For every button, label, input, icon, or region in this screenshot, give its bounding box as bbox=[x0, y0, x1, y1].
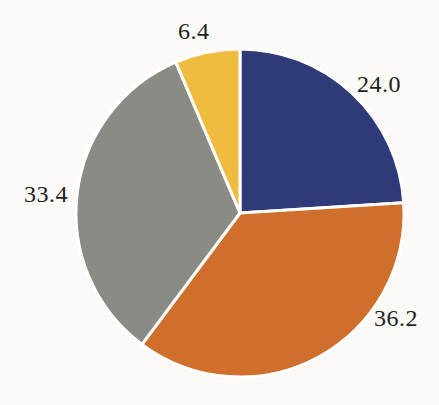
slice-label-orange: 36.2 bbox=[374, 306, 418, 330]
slice-label-yellow: 6.4 bbox=[178, 19, 210, 43]
slice-label-blue: 24.0 bbox=[357, 72, 401, 96]
pie-chart: 6.4 24.0 33.4 36.2 bbox=[0, 0, 439, 405]
slice-label-gray: 33.4 bbox=[24, 182, 68, 206]
